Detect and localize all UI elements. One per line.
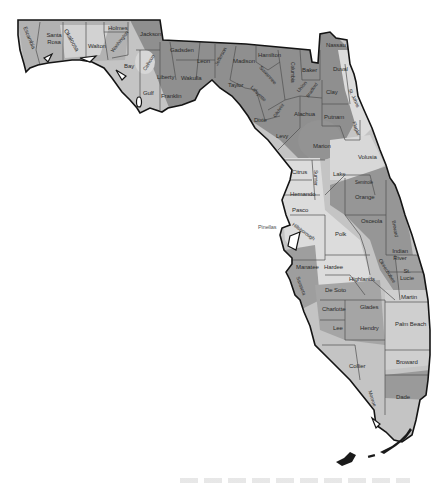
county-label-marion: Marion [313, 143, 331, 149]
county-label-st-lucie: St. Lucie [400, 268, 414, 282]
county-label-indian-river-text: Indian River [391, 248, 409, 262]
county-label-lake: Lake [333, 171, 346, 177]
county-label-de-soto: De Soto [325, 287, 346, 293]
county-label-citrus: Citrus [292, 169, 307, 175]
county-label-collier: Collier [349, 363, 365, 369]
county-label-alachua: Alachua [294, 111, 315, 117]
county-label-charlotte: Charlotte [322, 306, 345, 312]
county-label-volusia: Volusia [358, 154, 377, 160]
county-label-liberty: Liberty [157, 74, 174, 80]
county-label-walton: Walton [88, 43, 106, 49]
county-label-glades: Glades [360, 304, 378, 310]
county-label-baker: Baker [302, 67, 317, 73]
county-label-bay: Bay [124, 63, 134, 69]
county-label-lee: Lee [333, 325, 343, 331]
county-label-sumter: Sumter [313, 170, 318, 186]
county-label-nassau: Nassau [326, 42, 346, 48]
cropped-caption [180, 478, 410, 483]
county-label-duval: Duval [333, 66, 348, 72]
county-label-putnam: Putnam [324, 114, 344, 120]
county-label-franklin: Franklin [161, 93, 182, 99]
county-label-hernando: Hernando [290, 191, 316, 197]
county-label-wakulla: Wakulla [181, 75, 201, 81]
county-label-dade: Dade [396, 394, 410, 400]
county-label-hendry: Hendry [360, 325, 379, 331]
county-label-pinellas: Pinellas [258, 225, 276, 231]
county-label-leon: Leon [197, 58, 210, 64]
county-label-taylor: Taylor [228, 82, 243, 88]
county-label-st-lucie-text: St. Lucie [400, 268, 414, 282]
county-label-gadsden: Gadsden [170, 47, 194, 53]
county-label-broward: Broward [396, 359, 418, 365]
county-label-santa-rosa: Santa Rosa [44, 32, 64, 45]
county-label-dixie: Dixie [254, 117, 267, 123]
county-label-seminole: Seminole [355, 181, 373, 186]
county-label-hardee: Hardee [324, 264, 343, 270]
county-label-indian-river: Indian River [391, 248, 409, 262]
county-label-palm-beach: Palm Beach [395, 321, 426, 327]
florida-map [0, 0, 446, 483]
county-label-hamilton: Hamilton [258, 52, 281, 58]
county-label-santa-rosa-text: Santa Rosa [44, 32, 64, 45]
county-label-levy: Levy [276, 133, 288, 139]
county-label-osceola: Osceola [361, 218, 382, 224]
county-label-manatee: Manatee [296, 264, 319, 270]
county-label-gulf: Gulf [143, 90, 154, 96]
county-label-highlands: Highlands [349, 276, 375, 282]
county-label-martin: Martin [401, 294, 417, 300]
county-label-madison: Madison [233, 58, 255, 64]
shading-layer [0, 0, 446, 483]
county-label-columbia: Columbia [290, 62, 295, 82]
county-label-jackson: Jackson [140, 31, 161, 37]
county-label-pasco: Pasco [292, 207, 308, 213]
county-label-polk: Polk [335, 231, 346, 237]
county-label-orange: Orange [355, 194, 374, 200]
county-label-clay: Clay [326, 89, 338, 95]
